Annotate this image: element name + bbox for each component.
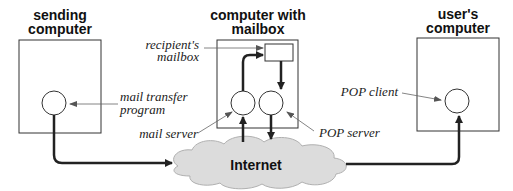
pop-client-label: POP client — [340, 84, 399, 99]
svg-text:mailbox: mailbox — [157, 49, 199, 64]
pointer-pop-client — [402, 93, 441, 100]
sending-computer-title: sending computer — [28, 7, 92, 37]
pop-server-label: POP server — [318, 125, 381, 140]
svg-text:mailbox: mailbox — [232, 21, 285, 37]
internet-label: Internet — [230, 157, 282, 173]
pop-client-node — [445, 89, 469, 113]
sending-computer-box — [19, 40, 101, 133]
svg-text:program: program — [119, 102, 165, 117]
mail-server-node — [231, 91, 255, 115]
mail-transfer-program-label: mail transfer program — [119, 89, 188, 117]
recipient-mailbox — [265, 44, 293, 61]
mail-server-label: mail server — [139, 126, 199, 141]
mailbox-computer-title: computer with mailbox — [210, 7, 306, 37]
pointer-mail-server — [198, 112, 232, 133]
flow-internet-to-pop-client — [346, 116, 459, 164]
mail-transfer-program-node — [42, 91, 66, 115]
svg-text:computer: computer — [426, 20, 490, 36]
user-computer-title: user's computer — [426, 6, 490, 36]
pop-server-node — [259, 91, 283, 115]
svg-text:computer: computer — [28, 21, 92, 37]
flow-mail-server-to-mailbox — [243, 55, 263, 91]
internet-cloud: Internet — [174, 136, 347, 189]
email-pop-diagram: sending computer computer with mailbox u… — [0, 0, 513, 191]
recipient-mailbox-label: recipient's mailbox — [145, 37, 199, 64]
